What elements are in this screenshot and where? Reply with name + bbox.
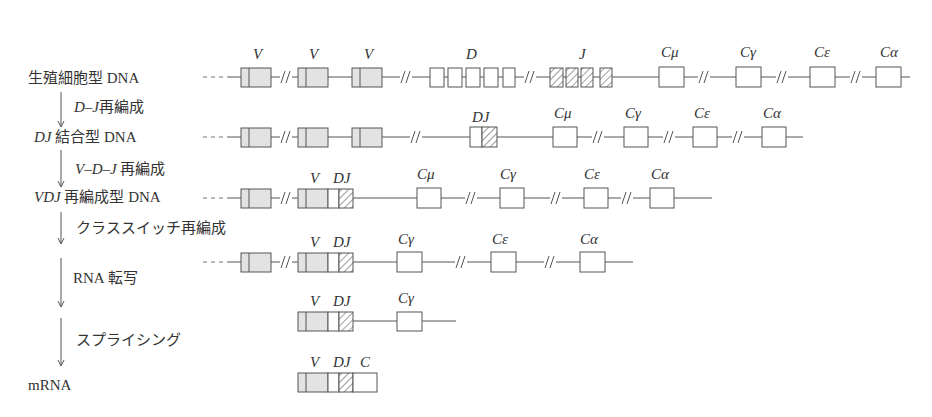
row-transcript: V DJ Cγ xyxy=(298,290,456,331)
arrow-down-icon xyxy=(58,92,64,127)
label-d: D xyxy=(465,46,477,62)
row-mrna: V DJ C xyxy=(298,354,377,392)
step-vdj-rearrangement: V–D–J 再編成 xyxy=(75,161,165,177)
v-segment xyxy=(241,68,271,87)
c-epsilon-segment xyxy=(491,252,516,272)
v-segment xyxy=(241,128,271,147)
label-c-gamma: Cγ xyxy=(398,290,415,306)
label-c-mu: Cμ xyxy=(554,105,572,121)
break-mark xyxy=(280,255,292,269)
label-v: V xyxy=(310,354,321,370)
mrna-vdjc xyxy=(298,373,377,392)
break-mark xyxy=(280,130,292,144)
label-c-gamma: Cγ xyxy=(500,166,517,182)
label-c-gamma: Cγ xyxy=(398,231,415,247)
break-mark xyxy=(776,70,788,84)
c-gamma-segment xyxy=(736,67,761,87)
row-germline-dna: V V V D J Cμ Cγ Cε Cα xyxy=(203,44,910,87)
break-mark xyxy=(455,255,467,269)
label-c-epsilon: Cε xyxy=(694,105,710,121)
c-epsilon-segment xyxy=(810,67,835,87)
break-mark xyxy=(850,70,862,84)
c-mu-segment xyxy=(417,188,441,208)
c-epsilon-segment xyxy=(584,188,608,208)
c-alpha-segment xyxy=(650,188,674,208)
break-mark xyxy=(280,191,292,205)
v-segment xyxy=(352,68,382,87)
break-mark xyxy=(698,70,710,84)
row-dj-joined-dna: DJ Cμ Cγ Cε Cα xyxy=(203,105,803,147)
c-mu-segment xyxy=(553,127,577,147)
step-dj-rearrangement: D–J再編成 xyxy=(73,99,144,115)
c-gamma-segment xyxy=(397,252,422,272)
label-dj: DJ xyxy=(332,234,352,250)
label-c: C xyxy=(360,354,371,370)
c-epsilon-segment xyxy=(693,127,717,147)
break-mark xyxy=(592,130,604,144)
label-dj: DJ xyxy=(332,354,352,370)
label-v: V xyxy=(253,46,264,62)
break-mark xyxy=(621,191,633,205)
vdj-segment xyxy=(298,189,353,208)
j-segments xyxy=(550,68,612,87)
label-dj: DJ xyxy=(332,293,352,309)
label-c-mu: Cμ xyxy=(661,44,679,60)
c-alpha-segment xyxy=(762,127,786,147)
arrow-down-icon xyxy=(58,318,64,366)
break-mark xyxy=(524,70,536,84)
label-v: V xyxy=(364,46,375,62)
row-vdj-rearranged-dna: V DJ Cμ Cγ Cε Cα xyxy=(203,166,712,208)
label-c-alpha: Cα xyxy=(651,166,670,182)
stage-vdj-label: VDJ 再編成型 DNA xyxy=(34,189,161,205)
stage-mrna-label: mRNA xyxy=(28,377,72,393)
label-v: V xyxy=(310,293,321,309)
label-c-gamma: Cγ xyxy=(740,44,757,60)
v-segment xyxy=(241,253,271,272)
break-mark xyxy=(544,255,556,269)
break-mark xyxy=(465,191,477,205)
vdj-segment xyxy=(298,312,353,331)
dj-segment xyxy=(470,127,497,147)
label-c-alpha: Cα xyxy=(580,231,599,247)
v-segment xyxy=(298,68,328,87)
break-mark xyxy=(550,191,562,205)
arrow-down-icon xyxy=(58,150,64,187)
break-mark xyxy=(732,130,744,144)
row-class-switched-dna: V DJ Cγ Cε Cα xyxy=(203,231,633,272)
c-gamma-segment xyxy=(500,188,524,208)
c-gamma-segment xyxy=(397,312,422,331)
label-dj: DJ xyxy=(332,170,352,186)
label-v: V xyxy=(309,46,320,62)
c-alpha-segment xyxy=(580,252,605,272)
break-mark xyxy=(400,70,412,84)
label-c-mu: Cμ xyxy=(417,166,435,182)
vdj-segment xyxy=(298,253,353,272)
break-mark xyxy=(280,70,292,84)
label-c-alpha: Cα xyxy=(763,105,782,121)
label-v: V xyxy=(310,234,321,250)
step-class-switch: クラススイッチ再編成 xyxy=(76,220,226,236)
label-c-gamma: Cγ xyxy=(625,105,642,121)
v-segment xyxy=(352,128,382,147)
label-j: J xyxy=(579,46,587,62)
break-mark xyxy=(663,130,675,144)
v-segment xyxy=(241,189,271,208)
arrow-down-icon xyxy=(58,212,64,244)
label-dj: DJ xyxy=(471,109,491,125)
label-v: V xyxy=(310,170,321,186)
v-segment xyxy=(298,128,328,147)
label-c-alpha: Cα xyxy=(880,44,899,60)
c-mu-segment xyxy=(659,67,684,87)
c-gamma-segment xyxy=(624,127,648,147)
stage-dj-label: DJ 結合型 DNA xyxy=(33,129,137,145)
step-transcription: RNA 転写 xyxy=(73,270,138,286)
stage-germline-label: 生殖細胞型 DNA xyxy=(28,70,139,86)
break-mark xyxy=(410,130,422,144)
arrow-down-icon xyxy=(58,258,64,307)
ig-gene-rearrangement-diagram: 生殖細胞型 DNA DJ 結合型 DNA VDJ 再編成型 DNA mRNA D… xyxy=(0,0,932,417)
label-c-epsilon: Cε xyxy=(814,44,830,60)
label-c-epsilon: Cε xyxy=(584,166,600,182)
label-c-epsilon: Cε xyxy=(492,231,508,247)
step-splicing: スプライシング xyxy=(76,332,181,348)
c-alpha-segment xyxy=(876,67,901,87)
